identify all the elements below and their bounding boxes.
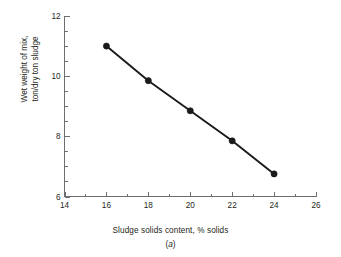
y-tick-label: 8 [56,132,61,141]
data-point-marker [229,138,235,144]
y-axis-title: Wet weight of mix, ton/dry ton sludge [19,0,43,149]
y-axis-title-line-1: Wet weight of mix, [19,0,30,149]
y-tick-label: 6 [56,193,61,202]
x-tick-label: 16 [102,201,112,210]
y-axis-title-line-2: ton/dry ton sludge [30,0,41,149]
data-point-marker [103,43,109,49]
x-tick-label: 24 [270,201,280,210]
data-point-marker [145,78,151,84]
data-point-marker [271,171,277,177]
y-axis-ticks [65,17,70,198]
data-point-marker [187,108,193,114]
figure-container: 14161820222426 681012 Wet weight of mix,… [0,0,341,257]
y-tick-label: 12 [51,12,61,21]
axes-group [64,16,316,197]
x-tick-label: 20 [186,201,196,210]
figure-caption: (a) [0,240,341,249]
y-axis-tick-labels: 681012 [51,12,61,202]
x-tick-label: 22 [228,201,238,210]
y-tick-label: 10 [51,72,61,81]
x-tick-label: 26 [311,201,321,210]
x-axis-ticks [66,192,317,197]
figure-caption-close: ) [173,240,176,249]
x-tick-label: 14 [60,201,70,210]
x-axis-title: Sludge solids content, % solids [0,225,341,236]
x-axis-tick-labels: 14161820222426 [60,201,321,210]
chart-plot-area: 14161820222426 681012 [0,0,341,257]
x-tick-label: 18 [144,201,154,210]
